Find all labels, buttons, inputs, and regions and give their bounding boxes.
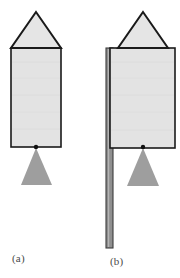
panel-a-caption: (a) <box>12 253 25 264</box>
panel-a <box>11 12 61 185</box>
panel-b-body-rect <box>110 48 175 148</box>
panel-b-caption: (b) <box>110 256 123 267</box>
panel-b-nose-cone <box>118 12 168 48</box>
panel-b <box>106 12 175 248</box>
panel-a-fulcrum <box>21 148 52 185</box>
panel-b-pivot-point <box>141 145 145 149</box>
figure-container: (a) (b) <box>0 0 180 278</box>
panel-a-nose-cone <box>11 12 61 48</box>
panel-a-pivot-point <box>34 145 38 149</box>
panel-b-fulcrum <box>127 148 159 186</box>
panel-a-body-rect <box>11 48 61 147</box>
figure-diagram <box>0 0 180 278</box>
